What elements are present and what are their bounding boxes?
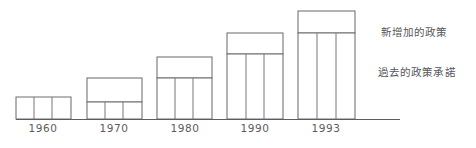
x-tick-label-1980: 1980	[170, 122, 199, 134]
stacked-bar-chart: 1960 1970 1980 1990 1993 新增加的政策 過去的政策承諾	[0, 0, 476, 148]
bars-group	[16, 11, 355, 119]
x-axis-tick-labels: 1960 1970 1980 1990 1993	[28, 122, 340, 134]
bar-group-1960[interactable]	[16, 97, 71, 119]
x-tick-label-1993: 1993	[311, 122, 340, 134]
bar-lower-1970[interactable]	[87, 102, 142, 119]
bar-group-1993[interactable]	[298, 11, 355, 119]
bar-group-1990[interactable]	[227, 33, 283, 119]
x-tick-label-1970: 1970	[99, 122, 128, 134]
x-tick-label-1960: 1960	[28, 122, 57, 134]
legend-label-new-policies: 新增加的政策	[381, 26, 448, 38]
bar-lower-1980[interactable]	[157, 78, 212, 119]
x-tick-label-1990: 1990	[240, 122, 269, 134]
bar-group-1970[interactable]	[87, 78, 142, 119]
legend-annotations: 新增加的政策 過去的政策承諾	[378, 26, 456, 78]
bar-upper-1990[interactable]	[227, 33, 283, 54]
chart-canvas: 1960 1970 1980 1990 1993 新增加的政策 過去的政策承諾	[0, 0, 476, 148]
bar-upper-1970[interactable]	[87, 78, 142, 102]
bar-group-1980[interactable]	[157, 57, 212, 119]
bar-lower-1960[interactable]	[16, 97, 71, 119]
bar-upper-1993[interactable]	[298, 11, 355, 33]
legend-label-past-commitments: 過去的政策承諾	[378, 66, 456, 78]
bar-upper-1980[interactable]	[157, 57, 212, 78]
bar-lower-1990[interactable]	[227, 54, 283, 119]
bar-lower-1993[interactable]	[298, 33, 355, 119]
